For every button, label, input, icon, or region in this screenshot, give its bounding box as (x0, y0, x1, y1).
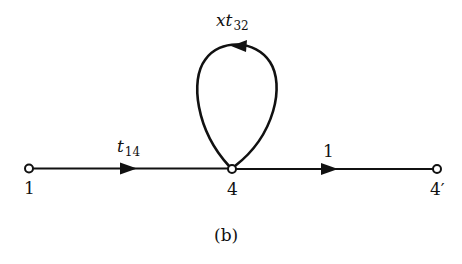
node-label-1: 1 (24, 180, 35, 197)
self-loop-edge (197, 44, 276, 166)
gain-variable: t (226, 10, 233, 30)
arrow-right-icon (321, 163, 338, 175)
node-1 (25, 165, 33, 173)
gain-coefficient: x (216, 10, 226, 30)
node-4 (228, 165, 236, 173)
node-label-4prime: 4′ (430, 181, 445, 198)
figure-caption: (b) (214, 227, 238, 244)
arrow-right-icon (120, 163, 137, 175)
edge-label-1: 1 (323, 143, 334, 160)
edge-label-t14: t14 (117, 138, 140, 155)
edge-label-xt32: xt32 (216, 12, 249, 29)
gain-variable: t (117, 136, 124, 156)
gain-subscript: 32 (233, 19, 248, 33)
node-4prime (433, 165, 441, 173)
arrow-left-icon (231, 40, 247, 52)
node-label-4: 4 (227, 181, 238, 198)
gain-subscript: 14 (125, 145, 140, 159)
